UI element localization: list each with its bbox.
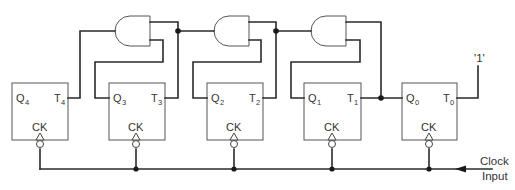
ff1-t-label: T [347,92,354,104]
ff2-ck-label: CK [226,121,242,133]
clock-label-line2: Input [482,170,508,182]
and-gate-1 [311,16,346,46]
flip-flop-1: Q 1 T 1 CK [304,83,361,148]
clock-bus [40,149,492,172]
counter-diagram: Clock Input Q 4 T 4 CK Q 3 T 3 CK Q 2 T … [0,0,515,190]
ff1-t-sub: 1 [354,98,358,107]
ff3-t-sub: 3 [158,98,162,107]
ff0-t-label: T [443,92,450,104]
ff0-ck-label: CK [421,121,437,133]
ff3-q-label: Q [113,92,122,104]
ff3-t-label: T [151,92,158,104]
flip-flop-0: Q 0 T 0 CK [402,83,457,148]
ff2-t-sub: 2 [256,98,260,107]
ff4-q-label: Q [16,92,25,104]
ff4-ck-label: CK [32,121,48,133]
clock-arrow-icon [455,166,466,173]
ff0-q-label: Q [406,92,415,104]
ff2-q-sub: 2 [220,98,224,107]
ff3-q-sub: 3 [122,98,126,107]
and-gate-2 [214,16,249,46]
flip-flop-3: Q 3 T 3 CK [109,83,165,148]
flip-flop-2: Q 2 T 2 CK [207,83,263,148]
ff3-ck-label: CK [128,121,144,133]
ff4-t-label: T [54,92,61,104]
flip-flop-4: Q 4 T 4 CK [12,83,68,148]
ff1-q-label: Q [308,92,317,104]
ff0-t-sub: 0 [450,98,454,107]
ff0-q-sub: 0 [415,98,419,107]
ff1-ck-label: CK [324,121,340,133]
ff1-q-sub: 1 [317,98,321,107]
constant-one-label: '1' [474,52,485,64]
ff4-q-sub: 4 [25,98,29,107]
and-gate-3 [115,16,150,46]
ff2-q-label: Q [211,92,220,104]
ff4-t-sub: 4 [61,98,65,107]
clock-label-line1: Clock [480,155,509,167]
ff2-t-label: T [249,92,256,104]
